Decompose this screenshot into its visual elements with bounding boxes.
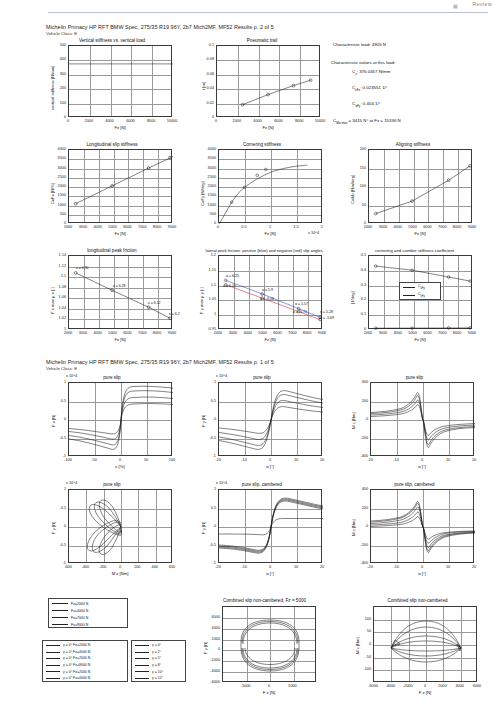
y-tick: 1.2: [190, 253, 216, 257]
plot-area: [218, 489, 322, 563]
x-tick: 0: [217, 225, 219, 229]
x-axis-label: α [°]: [370, 464, 474, 469]
x-tick: 9000: [168, 225, 176, 229]
series-longitudinal-slip-stiffness: [69, 150, 173, 224]
y-axis-label: F x [N]: [51, 415, 56, 427]
y-tick: 0.4: [342, 268, 366, 272]
legend-item: γ = 0° Fz=2000 N: [43, 642, 127, 649]
chart-combined-slip-mz-fx: Combined slip non-cambered -100 -50 0: [345, 598, 490, 703]
x-tick: 3000: [79, 225, 87, 229]
x-tick: 5000: [108, 331, 116, 335]
cz-value: Cz: 376.0457 N/mm: [352, 69, 390, 76]
x-tick: -10: [241, 565, 247, 569]
series-pure-slip-fy-mz: [69, 490, 173, 564]
y-tick: 400: [342, 487, 368, 491]
legend-label: γ = 0° Fz=4000 N: [63, 676, 90, 680]
y-tick: -2000: [192, 658, 220, 662]
y-axis-label: CαMz [Nm/deg]: [350, 175, 355, 204]
x-tick: 0: [268, 684, 270, 688]
y-tick: -400: [342, 561, 368, 565]
legend-item: Fz=9000 N: [49, 621, 127, 628]
x-tick: 2000: [364, 225, 372, 229]
legend-item: γ = 2°: [132, 649, 185, 656]
x-tick: 4000: [243, 331, 251, 335]
y-axis-label: M z [Nm]: [351, 519, 356, 536]
x-tick: 2000: [364, 331, 372, 335]
x-tick: 400: [152, 565, 158, 569]
x-tick: 10: [294, 565, 298, 569]
x-tick: 10: [446, 458, 450, 462]
series-pure-slip-fx: [69, 383, 173, 457]
y-axis-label: F x max μ x [-]: [50, 287, 55, 314]
legend-item: γ = 0° Fz=7000 N: [43, 655, 127, 662]
x-tick: -10: [241, 458, 247, 462]
legend-gamma-fz: γ = 0° Fz=2000 N γ = 0° Fz=4000 N γ = 0°…: [42, 640, 128, 682]
x-tick: -600: [64, 565, 72, 569]
legend-item: γ = 5°: [132, 655, 185, 662]
legend-label: γ = 0° Fz=4000 N: [63, 650, 90, 654]
y-tick: 1: [42, 487, 66, 491]
x-tick: 5000: [108, 225, 116, 229]
y-tick: -0.5: [42, 543, 66, 547]
x-tick: 0: [67, 119, 69, 123]
x-tick: 8000: [303, 331, 311, 335]
y-tick: 0: [192, 115, 214, 119]
review-tab-label[interactable]: Review: [472, 1, 492, 7]
y-tick: 1: [192, 380, 216, 384]
series-pure-slip-cambered-fy: [219, 490, 323, 564]
y-axis-label: F y max μ y [-]: [199, 287, 204, 314]
legend-item: γ = 8°: [132, 662, 185, 669]
annotation: α = 6.25: [226, 274, 239, 278]
y-tick: -0.5: [42, 436, 66, 440]
y-tick: -200: [342, 543, 368, 547]
x-axis-label: α [°]: [218, 571, 322, 576]
plot-area: [216, 45, 320, 117]
chart-pure-slip-cambered-mz: pure slip, cambered -400 -200 0 200 400 …: [342, 482, 487, 582]
y-tick: 200: [342, 399, 368, 403]
x-tick: 20: [320, 565, 324, 569]
x-tick: 6000: [126, 119, 134, 123]
annotation: α = -5.69: [320, 316, 334, 320]
series-cornering-stiffness: [219, 150, 323, 224]
y-axis-label: M z [Nm]: [355, 637, 360, 654]
x-tick: 5000: [408, 331, 416, 335]
x-axis-label: Fz [N]: [368, 231, 472, 236]
x-tick: 6000: [423, 225, 431, 229]
x-tick: -10: [393, 565, 399, 569]
annotation: α = -5.74: [293, 310, 307, 314]
legend-label: Fz=9000 N: [71, 623, 88, 627]
x-tick: 8000: [147, 119, 155, 123]
y-tick: 500: [42, 43, 66, 47]
chart-pure-slip-fx: x 10^4 pure slip -1 -0.5 0 0.5 1 -100 -5…: [42, 375, 182, 475]
y-axis-label: CαFy [N/deg]: [200, 181, 205, 206]
x-axis-label: M z [Nm]: [68, 571, 172, 576]
y-tick: 2000: [192, 637, 220, 641]
x-tick: 9000: [168, 331, 176, 335]
x-tick: 7000: [138, 331, 146, 335]
legend-item: γ = 0°: [132, 642, 185, 649]
grid-icon[interactable]: ▦: [453, 4, 458, 9]
y-axis-label: CκFx [N/%]: [50, 183, 55, 204]
x-tick: -200: [99, 565, 107, 569]
y-tick: 400: [342, 380, 368, 384]
annotation: α = 6.10: [223, 284, 236, 288]
chart-aligning-stiffness: Aligning stiffness 0 50 100 150 200 2000…: [342, 142, 484, 240]
x-tick: 0: [119, 565, 121, 569]
y-tick: -0.5: [192, 543, 216, 547]
x-tick: -20: [367, 565, 373, 569]
x-tick: 1: [269, 225, 271, 229]
legend-item: γ = 12°: [132, 675, 185, 682]
x-tick: 10: [294, 458, 298, 462]
chart-pure-slip-mz: pure slip -400 -200 0 200 400 -20 -10 0 …: [342, 375, 487, 475]
x-tick: 0: [119, 458, 121, 462]
x-tick: -20: [215, 565, 221, 569]
x-tick: 9000: [468, 225, 476, 229]
x-tick: 10: [446, 565, 450, 569]
x-axis-label: Fz [N]: [68, 337, 172, 342]
x-tick: 3000: [379, 225, 387, 229]
cmz-number: = 3415 N° at Fz = 15336 N: [347, 118, 401, 123]
x-tick: 4000: [105, 119, 113, 123]
y-tick: 3500: [192, 156, 216, 160]
characteristic-values-header: Characteristic values at this load:: [331, 60, 395, 65]
y-tick: -1: [192, 561, 216, 565]
